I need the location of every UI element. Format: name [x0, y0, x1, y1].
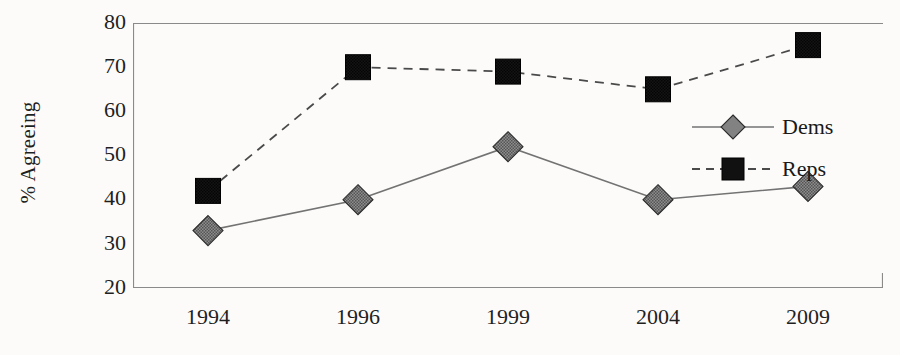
- x-tick-label: 1996: [283, 305, 433, 329]
- chart-figure: % Agreeing 80 70 60 50 40 30 20: [0, 0, 900, 355]
- x-tick-label: 1999: [433, 305, 583, 329]
- x-tick-label: 2004: [583, 305, 733, 329]
- y-tick-label: 30: [80, 232, 126, 254]
- x-tick-label: 2009: [733, 305, 883, 329]
- chart-legend: Dems Reps: [690, 112, 865, 184]
- legend-label-dems: Dems: [782, 113, 833, 141]
- diamond-marker: [690, 112, 776, 142]
- y-tick-label: 40: [80, 187, 126, 209]
- y-tick-label: 70: [80, 55, 126, 77]
- legend-item-reps: Reps: [690, 154, 865, 184]
- y-tick-label: 60: [80, 99, 126, 121]
- legend-label-reps: Reps: [782, 155, 826, 183]
- y-tick-label: 50: [80, 143, 126, 165]
- x-axis-tick-labels: 1994 1996 1999 2004 2009: [133, 305, 883, 339]
- square-marker: [690, 154, 776, 184]
- y-axis-title: % Agreeing: [16, 53, 41, 253]
- x-tick-label: 1994: [133, 305, 283, 329]
- legend-item-dems: Dems: [690, 112, 865, 142]
- y-tick-label: 20: [80, 276, 126, 298]
- y-tick-label: 80: [80, 11, 126, 33]
- y-axis-tick-labels: 80 70 60 50 40 30 20: [78, 0, 126, 355]
